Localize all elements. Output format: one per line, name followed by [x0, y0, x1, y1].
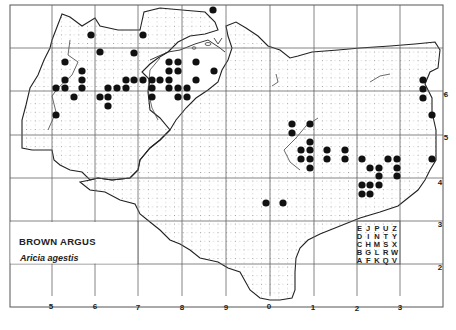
y-axis-label-2: 2	[438, 263, 442, 272]
x-axis-label-2: 2	[355, 304, 359, 313]
y-axis-label-4: 4	[438, 178, 442, 187]
distribution-map	[0, 0, 456, 330]
y-axis-label-3: 3	[438, 220, 442, 229]
y-axis-label-5: 5	[444, 133, 448, 142]
x-axis-label-8: 8	[180, 303, 184, 312]
x-axis-label-3: 3	[398, 303, 402, 312]
x-axis-label-1: 1	[311, 303, 315, 312]
tetrad-letter: K	[373, 257, 382, 265]
species-scientific-name: Aricia agestis	[20, 253, 79, 263]
tetrad-letter: V	[390, 257, 399, 265]
tetrad-letter: Q	[381, 257, 390, 265]
x-axis-label-5: 5	[49, 302, 53, 311]
tetrad-key: E J P U Z D I N T Y C H M S X B G L R W …	[355, 225, 399, 265]
tetrad-letter: A	[355, 257, 364, 265]
x-axis-label-7: 7	[136, 303, 140, 312]
species-common-name: BROWN ARGUS	[19, 236, 96, 247]
x-axis-label-9: 9	[224, 303, 228, 312]
x-axis-label-0: 0	[267, 302, 271, 311]
tetrad-letter: F	[364, 257, 373, 265]
y-axis-label-6: 6	[444, 90, 448, 99]
x-axis-label-6: 6	[93, 302, 97, 311]
